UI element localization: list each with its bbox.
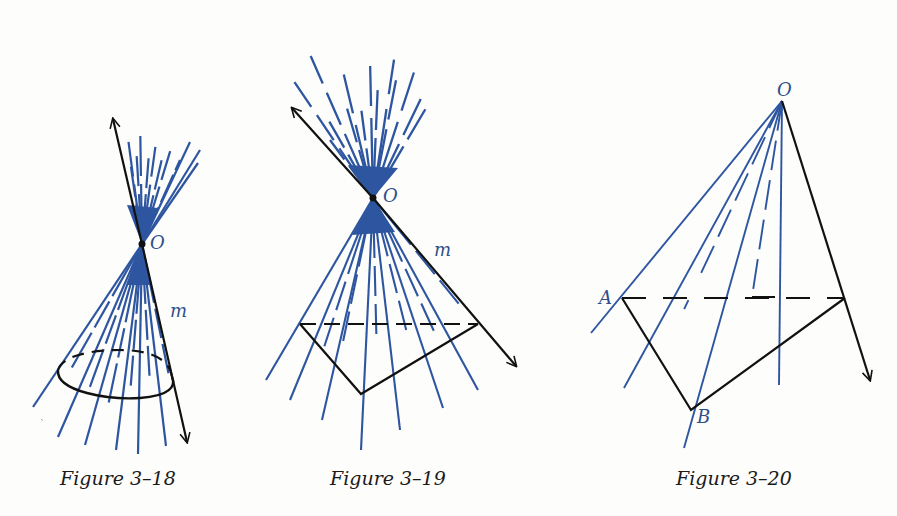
figure-3-19: [266, 40, 516, 450]
caption-figure-3-19: Figure 3–19: [330, 467, 446, 489]
fig318-label-m: m: [170, 300, 187, 321]
edge-o-c-arrow: [782, 101, 870, 380]
fig320-label-o: O: [777, 79, 792, 100]
figure-3-20: [591, 101, 870, 448]
fig319-label-m: m: [434, 239, 451, 260]
caption-figure-3-18: Figure 3–18: [60, 467, 176, 489]
vertex-point: [370, 195, 377, 202]
fig320-label-a: A: [599, 287, 612, 308]
vertex-point: [139, 241, 146, 248]
fig318-label-o: O: [150, 232, 165, 253]
fig319-label-o: O: [383, 185, 398, 206]
caption-figure-3-20: Figure 3–20: [676, 467, 792, 489]
lower-nappe-rays: [33, 244, 176, 454]
figure-3-18: [33, 115, 200, 454]
line-m-lower: [142, 244, 187, 442]
edge-a-b-c: [622, 298, 845, 410]
fig320-label-b: B: [697, 406, 710, 427]
rays: [591, 101, 782, 448]
